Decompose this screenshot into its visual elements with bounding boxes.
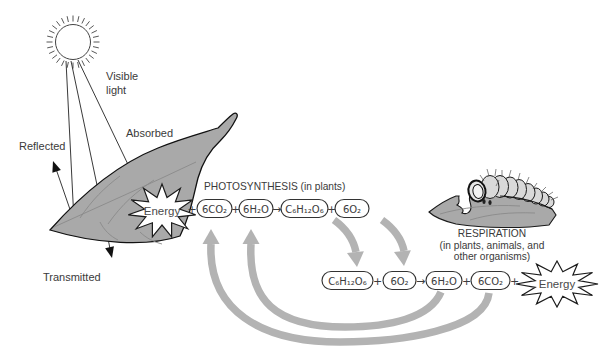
oxygen-transfer-arc xyxy=(382,220,404,251)
diagram-canvas: Visible light Absorbed Reflected Transmi… xyxy=(0,0,600,350)
energy-label-left: Energy xyxy=(144,205,181,217)
term-co2: 6CO₂ xyxy=(202,204,227,215)
respiration-title: RESPIRATION xyxy=(458,228,526,239)
term-h2o: 6H₂O xyxy=(431,276,457,287)
transmitted-label: Transmitted xyxy=(43,271,101,283)
term-glucose: C₆H₁₂O₆ xyxy=(285,204,323,215)
plus-operator: + xyxy=(510,275,519,288)
transmitted-arrowhead-icon xyxy=(105,246,116,259)
co2-return-arrowhead-icon xyxy=(203,229,220,244)
respiration-equation: C₆H₁₂O₆ + 6O₂ → 6H₂O + 6CO₂ + Energy xyxy=(322,261,598,307)
photosynthesis-respiration-diagram: Visible light Absorbed Reflected Transmi… xyxy=(0,0,600,350)
glucose-arrowhead-icon xyxy=(347,251,365,268)
term-h2o: 6H₂O xyxy=(243,204,269,215)
term-glucose: C₆H₁₂O₆ xyxy=(328,276,366,287)
term-oxygen: 6O₂ xyxy=(390,276,408,287)
oxygen-arrowhead-icon xyxy=(394,250,412,267)
plus-operator: + xyxy=(373,275,382,288)
respiration-organism: RESPIRATION (in plants, animals, and oth… xyxy=(429,169,558,262)
energy-label-right: Energy xyxy=(539,278,576,290)
caterpillar-leg xyxy=(488,200,491,205)
sun-icon xyxy=(56,25,91,60)
yields-arrow: → xyxy=(416,275,425,288)
glucose-transfer-arc xyxy=(334,220,356,252)
plus-operator: + xyxy=(462,275,471,288)
term-oxygen: 6O₂ xyxy=(343,204,361,215)
term-co2: 6CO₂ xyxy=(478,276,503,287)
photosynthesis-equation: PHOTOSYNTHESIS (in plants) Energy + 6CO₂… xyxy=(128,181,369,237)
respiration-subtitle-line1: (in plants, animals, and xyxy=(440,240,545,251)
reflected-arrowhead-icon xyxy=(49,160,61,173)
h2o-return-arrowhead-icon xyxy=(243,229,260,244)
caterpillar-leg xyxy=(482,199,485,204)
photosynthesis-title: PHOTOSYNTHESIS (in plants) xyxy=(204,181,345,192)
absorbed-label: Absorbed xyxy=(126,127,173,139)
sun xyxy=(47,16,100,69)
yields-arrow: → xyxy=(272,203,281,216)
light-beam-left xyxy=(66,61,74,221)
visible-light-label-line1: Visible xyxy=(106,70,138,82)
plus-operator: + xyxy=(187,203,196,216)
reflected-label: Reflected xyxy=(19,140,65,152)
respiration-subtitle-line2: other organisms) xyxy=(454,251,530,262)
visible-light-label-line2: light xyxy=(106,84,126,96)
